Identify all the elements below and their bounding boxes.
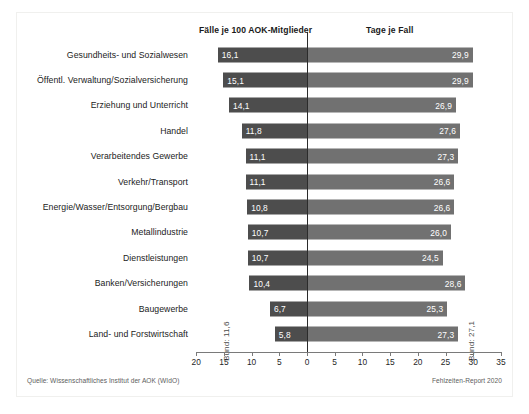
bar-value-days: 26,0 — [430, 227, 447, 237]
column-header-days: Tage je Fall — [366, 25, 413, 35]
bar-days: 25,3 — [307, 301, 447, 316]
axis-tick — [252, 352, 253, 356]
bar-value-cases: 6,7 — [274, 304, 286, 314]
bar-value-days: 26,9 — [435, 100, 452, 110]
zero-axis-line — [307, 32, 308, 354]
category-label: Verkehr/Transport — [118, 177, 188, 187]
category-label: Handel — [160, 126, 188, 136]
bar-value-cases: 5,8 — [279, 329, 291, 339]
table-row: Metallindustrie10,726,0 — [0, 220, 529, 245]
table-row: Erziehung und Unterricht14,126,9 — [0, 93, 529, 118]
axis-tick-label: 5 — [277, 357, 282, 367]
category-label: Energie/Wasser/Entsorgung/Bergbau — [43, 202, 188, 212]
bar-cases: 16,1 — [218, 47, 307, 62]
axis-tick-label: 30 — [469, 357, 478, 367]
chart-figure: Fälle je 100 AOK-Mitglieder Tage je Fall… — [0, 0, 529, 414]
category-label: Metallindustrie — [131, 227, 188, 237]
bar-days: 27,3 — [307, 327, 458, 342]
bar-value-cases: 15,1 — [227, 75, 244, 85]
bar-cases: 11,1 — [246, 174, 307, 189]
axis-tick-label: 10 — [247, 357, 256, 367]
x-axis-line — [197, 352, 501, 353]
axis-tick — [307, 352, 308, 356]
category-label: Gesundheits- und Sozialwesen — [67, 50, 188, 60]
bar-value-cases: 10,7 — [252, 253, 269, 263]
bar-days: 29,9 — [307, 73, 473, 88]
axis-tick — [279, 352, 280, 356]
table-row: Land- und Forstwirtschaft5,827,3 — [0, 321, 529, 346]
bar-value-cases: 16,1 — [222, 50, 239, 60]
bar-cases: 6,7 — [270, 301, 307, 316]
bar-cases: 10,4 — [249, 276, 307, 291]
report-note: Fehlzeiten-Report 2020 — [432, 377, 502, 384]
category-label: Verarbeitendes Gewerbe — [91, 151, 188, 161]
bar-value-cases: 10,4 — [253, 278, 270, 288]
axis-tick-label: 20 — [192, 357, 201, 367]
bar-days: 28,6 — [307, 276, 465, 291]
axis-tick — [196, 352, 197, 356]
table-row: Banken/Versicherungen10,428,6 — [0, 271, 529, 296]
category-label: Banken/Versicherungen — [95, 278, 188, 288]
axis-tick-label: 15 — [219, 357, 228, 367]
table-row: Verkehr/Transport11,126,6 — [0, 169, 529, 194]
table-row: Baugewerbe6,725,3 — [0, 296, 529, 321]
axis-tick-label: 0 — [305, 357, 310, 367]
bar-cases: 11,1 — [246, 149, 307, 164]
bar-cases: 5,8 — [275, 327, 307, 342]
axis-tick-label: 15 — [385, 357, 394, 367]
bar-value-cases: 11,1 — [250, 177, 266, 187]
table-row: Dienstleistungen10,724,5 — [0, 245, 529, 270]
bar-days: 26,9 — [307, 98, 456, 113]
bar-days: 26,6 — [307, 174, 454, 189]
bar-value-cases: 10,8 — [251, 202, 268, 212]
column-header-cases: Fälle je 100 AOK-Mitglieder — [199, 25, 312, 35]
bar-cases: 10,7 — [248, 250, 307, 265]
category-label: Dienstleistungen — [123, 253, 188, 263]
bar-days: 29,9 — [307, 47, 473, 62]
axis-tick — [473, 352, 474, 356]
bar-days: 27,3 — [307, 149, 458, 164]
axis-tick-label: 25 — [441, 357, 450, 367]
x-axis: 201510505101520253035 — [0, 352, 529, 374]
bar-cases: 10,8 — [247, 200, 307, 215]
table-row: Energie/Wasser/Entsorgung/Bergbau10,826,… — [0, 194, 529, 219]
bar-value-days: 29,9 — [452, 50, 469, 60]
axis-tick — [362, 352, 363, 356]
axis-tick — [390, 352, 391, 356]
category-label: Land- und Forstwirtschaft — [89, 329, 188, 339]
axis-tick — [418, 352, 419, 356]
bar-value-days: 26,6 — [434, 202, 451, 212]
bar-cases: 11,8 — [242, 123, 307, 138]
category-label: Erziehung und Unterricht — [91, 100, 188, 110]
source-note: Quelle: Wissenschaftliches Institut der … — [27, 377, 179, 384]
bar-value-days: 24,5 — [422, 253, 439, 263]
axis-tick-label: 20 — [413, 357, 422, 367]
bar-value-cases: 11,8 — [246, 126, 262, 136]
plot-area: Gesundheits- und Sozialwesen16,129,9Öffe… — [0, 42, 529, 348]
bar-value-days: 27,6 — [439, 126, 456, 136]
bar-value-cases: 14,1 — [233, 100, 250, 110]
bar-value-days: 27,3 — [438, 329, 455, 339]
category-label: Öffentl. Verwaltung/Sozialversicherung — [37, 75, 188, 85]
bar-value-days: 29,9 — [452, 75, 469, 85]
bar-value-days: 25,3 — [426, 304, 443, 314]
bar-value-days: 28,6 — [445, 278, 462, 288]
axis-tick — [335, 352, 336, 356]
axis-tick — [224, 352, 225, 356]
axis-tick-label: 10 — [358, 357, 367, 367]
bar-value-cases: 10,7 — [252, 227, 269, 237]
table-row: Verarbeitendes Gewerbe11,127,3 — [0, 144, 529, 169]
bar-days: 26,6 — [307, 200, 454, 215]
axis-tick-label: 5 — [332, 357, 337, 367]
table-row: Gesundheits- und Sozialwesen16,129,9 — [0, 42, 529, 67]
axis-tick-label: 35 — [496, 357, 505, 367]
axis-tick — [446, 352, 447, 356]
bar-days: 26,0 — [307, 225, 451, 240]
table-row: Handel11,827,6 — [0, 118, 529, 143]
bar-days: 24,5 — [307, 250, 443, 265]
table-row: Öffentl. Verwaltung/Sozialversicherung15… — [0, 67, 529, 92]
bar-cases: 15,1 — [223, 73, 307, 88]
bar-cases: 14,1 — [229, 98, 307, 113]
bar-value-cases: 11,1 — [250, 151, 266, 161]
bar-value-days: 26,6 — [434, 177, 451, 187]
